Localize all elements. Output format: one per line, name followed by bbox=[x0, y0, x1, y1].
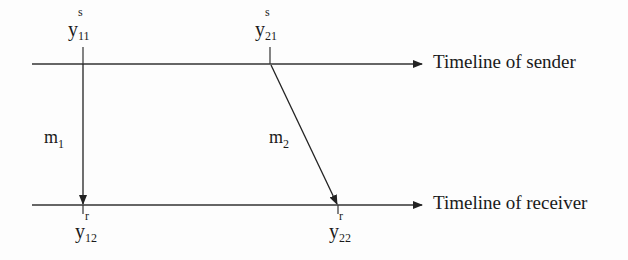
event-label-y11s: ys11 bbox=[68, 18, 90, 41]
sender-timeline-label: Timeline of sender bbox=[433, 51, 576, 73]
event-sup: s bbox=[265, 6, 270, 18]
event-label-y12r: yr12 bbox=[75, 220, 97, 243]
event-base: y bbox=[255, 18, 265, 40]
message-sub: 1 bbox=[58, 137, 64, 151]
message-base: m bbox=[269, 127, 283, 147]
message-label-m2: m2 bbox=[269, 127, 289, 152]
message-base: m bbox=[44, 127, 58, 147]
event-sub: 22 bbox=[339, 231, 351, 245]
event-sup: s bbox=[78, 6, 83, 18]
event-base: y bbox=[68, 18, 78, 40]
event-sup: r bbox=[339, 210, 343, 222]
receiver-timeline-label: Timeline of receiver bbox=[433, 192, 587, 214]
event-sub: 21 bbox=[265, 29, 277, 43]
message-label-m1: m1 bbox=[44, 127, 64, 152]
event-base: y bbox=[75, 220, 85, 242]
message-sub: 2 bbox=[283, 137, 289, 151]
timeline-diagram: ys11 ys21 yr12 yr22 m1 m2 Timeline of se… bbox=[0, 0, 628, 260]
event-sub: 11 bbox=[78, 29, 90, 43]
event-sub: 12 bbox=[85, 231, 97, 245]
event-label-y22r: yr22 bbox=[329, 220, 351, 243]
event-sup: r bbox=[85, 210, 89, 222]
event-label-y21s: ys21 bbox=[255, 18, 277, 41]
event-base: y bbox=[329, 220, 339, 242]
